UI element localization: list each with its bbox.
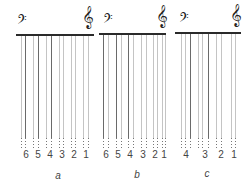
string-line [185,34,186,138]
string-fade [157,138,158,148]
string-number-label: 3 [202,149,208,160]
string-number-label: 5 [115,149,121,160]
string-number-label: 4 [183,149,189,160]
string-line [21,36,22,138]
string-line [38,36,39,138]
string-fade [208,138,209,148]
string-line [51,36,52,138]
string-fade [121,138,122,148]
string-line [133,35,134,138]
string-line [128,35,129,138]
string-fade [198,138,199,148]
string-fade [21,138,22,148]
string-line [231,34,232,138]
string-fade [202,138,203,148]
string-fade [71,138,72,148]
string-number-label: 2 [71,149,77,160]
string-number-label: 3 [140,149,146,160]
string-line [157,35,158,138]
string-fade [33,138,34,148]
string-fade [63,138,64,148]
string-number-label: 4 [47,149,53,160]
string-line [108,35,109,138]
string-line [153,35,154,138]
string-number-label: 1 [161,149,167,160]
string-line [59,36,60,138]
string-line [103,35,104,138]
string-fade [116,138,117,148]
panel-caption-a: a [55,170,61,181]
panel-caption-c: c [205,168,210,179]
string-line [83,36,84,138]
panel-caption-b: b [134,169,140,180]
string-fade [108,138,109,148]
string-line [46,36,47,138]
string-line [121,35,122,138]
string-line [141,35,142,138]
string-fade [235,138,236,148]
string-number-label: 5 [35,149,41,160]
string-line [63,36,64,138]
string-number-label: 6 [23,149,29,160]
string-fade [185,138,186,148]
string-line [146,35,147,138]
string-fade [133,138,134,148]
string-fade [216,138,217,148]
string-line [181,34,182,138]
string-line [235,34,236,138]
bass-clef-icon: 𝄢 [103,13,113,28]
string-fade [153,138,154,148]
string-fade [59,138,60,148]
string-line [190,34,191,138]
string-line [202,34,203,138]
string-line [162,35,163,138]
treble-clef-icon: 𝄞 [156,5,168,25]
bass-clef-icon: 𝄢 [17,14,27,29]
string-fade [75,138,76,148]
string-line [198,34,199,138]
string-number-label: 2 [152,149,158,160]
string-fade [51,138,52,148]
string-fade [46,138,47,148]
treble-clef-icon: 𝄞 [230,4,242,24]
string-fade [231,138,232,148]
string-line [75,36,76,138]
bass-clef-icon: 𝄢 [179,12,189,27]
string-fade [146,138,147,148]
string-fade [162,138,163,148]
string-number-label: 2 [218,149,224,160]
string-number-label: 6 [103,149,109,160]
string-fade [83,138,84,148]
string-line [221,34,222,138]
string-number-label: 1 [231,149,237,160]
string-fade [190,138,191,148]
string-fade [38,138,39,148]
string-line [208,34,209,138]
string-line [116,35,117,138]
string-fade [88,138,89,148]
string-fade [128,138,129,148]
string-line [88,36,89,138]
string-line [33,36,34,138]
treble-clef-icon: 𝄞 [82,6,94,26]
string-number-label: 3 [59,149,65,160]
string-fade [181,138,182,148]
string-line [25,36,26,138]
string-line [216,34,217,138]
string-fade [103,138,104,148]
string-number-label: 1 [83,149,89,160]
string-number-label: 4 [127,149,133,160]
string-fade [221,138,222,148]
string-fade [25,138,26,148]
string-line [165,35,166,138]
string-fade [141,138,142,148]
string-line [71,36,72,138]
string-fade [165,138,166,148]
